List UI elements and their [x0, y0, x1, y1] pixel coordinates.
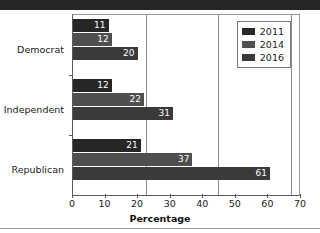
bar-democrat-2016[interactable]: 20 [73, 47, 138, 60]
bar-republican-2011[interactable]: 21 [73, 139, 141, 152]
legend-item-2014[interactable]: 2014 [242, 38, 284, 51]
category-label-independent: Independent [4, 104, 64, 115]
chart-container: Democrat Independent Republican 11 12 20… [0, 10, 320, 218]
legend-item-2011[interactable]: 2011 [242, 25, 284, 38]
legend-label: 2011 [260, 25, 284, 38]
x-tick-label-70: 70 [294, 198, 306, 209]
bar-value-label: 12 [97, 79, 108, 92]
x-axis: 0 10 20 30 40 50 60 70 [72, 198, 300, 212]
bar-republican-2016[interactable]: 61 [73, 167, 270, 180]
bar-value-label: 61 [255, 167, 266, 180]
x-tick-label-0: 0 [69, 198, 75, 209]
legend[interactable]: 2011 2014 2016 [237, 21, 291, 68]
bar-value-label: 11 [94, 19, 105, 32]
category-label-republican: Republican [12, 164, 64, 175]
x-tick-label-10: 10 [99, 198, 111, 209]
x-tick-label-40: 40 [196, 198, 208, 209]
legend-label: 2014 [260, 38, 284, 51]
bar-value-label: 21 [126, 139, 137, 152]
bar-independent-2016[interactable]: 31 [73, 107, 173, 120]
legend-item-2016[interactable]: 2016 [242, 51, 284, 64]
x-tick-label-50: 50 [229, 198, 241, 209]
bar-value-label: 31 [159, 107, 170, 120]
bar-value-label: 37 [178, 153, 189, 166]
x-tick-label-20: 20 [131, 198, 143, 209]
title-bar [0, 0, 320, 10]
bar-democrat-2014[interactable]: 12 [73, 33, 112, 46]
bar-republican-2014[interactable]: 37 [73, 153, 192, 166]
legend-swatch-icon [242, 28, 255, 35]
legend-swatch-icon [242, 41, 255, 48]
bar-democrat-2011[interactable]: 11 [73, 19, 109, 32]
bar-independent-2011[interactable]: 12 [73, 79, 112, 92]
plot-area: 11 12 20 12 22 31 21 37 [72, 14, 300, 196]
x-tick-label-30: 30 [164, 198, 176, 209]
legend-swatch-icon [242, 54, 255, 61]
bar-value-label: 22 [130, 93, 141, 106]
bar-value-label: 20 [123, 47, 134, 60]
y-tick-2 [69, 135, 73, 136]
category-label-democrat: Democrat [17, 44, 64, 55]
y-tick-1 [69, 75, 73, 76]
category-axis: Democrat Independent Republican [0, 14, 68, 196]
gridline-30 [291, 15, 292, 195]
legend-label: 2016 [260, 51, 284, 64]
bar-value-label: 12 [97, 33, 108, 46]
x-tick-label-60: 60 [261, 198, 273, 209]
bar-independent-2014[interactable]: 22 [73, 93, 144, 106]
footer-divider [0, 228, 320, 229]
x-axis-title: Percentage [0, 213, 320, 224]
